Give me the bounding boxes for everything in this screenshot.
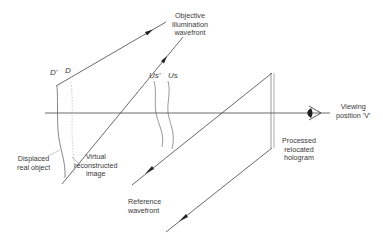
label-line: hologram (282, 154, 316, 163)
label-line: real object (17, 164, 50, 173)
label-hologram: Processed relocated hologram (282, 137, 316, 163)
label-line: image (74, 170, 118, 179)
label-viewing-position: Viewing position 'V' (336, 103, 370, 120)
label-line: wavefront (128, 207, 161, 216)
arrow-icon (179, 214, 188, 222)
label-line: wavefront (172, 29, 208, 38)
arrow-icon (145, 166, 154, 174)
label-displaced-object: Displaced real object (17, 155, 50, 172)
displaced-object-arc (57, 86, 65, 178)
label-us-prime: Us' (149, 72, 160, 81)
label-us: Us (168, 72, 178, 81)
label-d: D (65, 67, 71, 76)
eye-lens (307, 108, 312, 118)
label-d-prime: D' (50, 69, 57, 78)
label-reference-wavefront: Reference wavefront (128, 198, 161, 215)
us-wave (168, 81, 174, 149)
arrow-icon (145, 30, 153, 36)
label-objective-wavefront: Objective illumination wavefront (172, 12, 208, 38)
label-virtual-image: Virtual reconstructed image (74, 153, 118, 179)
us-prime-wave (154, 81, 163, 147)
label-line: position 'V' (336, 112, 370, 121)
